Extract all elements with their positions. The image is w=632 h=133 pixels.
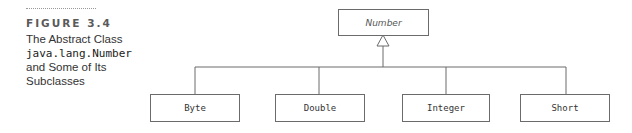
class-box-number: Number — [338, 9, 429, 36]
class-name-integer: Integer — [427, 103, 465, 113]
inheritance-arrow-icon — [377, 35, 389, 46]
class-box-byte: Byte — [150, 94, 240, 122]
class-box-integer: Integer — [402, 94, 490, 122]
class-name-double: Double — [304, 103, 337, 113]
class-name-number: Number — [365, 18, 401, 28]
class-box-short: Short — [520, 94, 610, 122]
class-box-double: Double — [275, 94, 365, 122]
class-name-byte: Byte — [184, 103, 206, 113]
class-name-short: Short — [551, 103, 578, 113]
